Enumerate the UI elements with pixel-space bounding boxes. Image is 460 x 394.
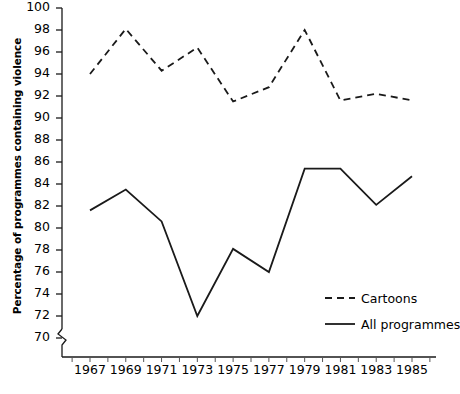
y-axis-break-icon [58, 329, 66, 357]
series-line-cartoons [90, 29, 412, 102]
legend-label-all-programmes: All programmes [361, 317, 460, 332]
y-axis-ticks [56, 8, 62, 338]
x-axis-ticks [72, 357, 430, 362]
legend-label-cartoons: Cartoons [361, 291, 417, 306]
